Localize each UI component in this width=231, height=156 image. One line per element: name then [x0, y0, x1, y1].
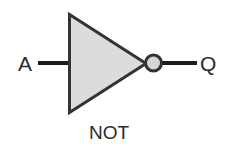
gate-body-triangle — [70, 15, 147, 113]
logic-gate-canvas: A Q NOT — [0, 0, 231, 156]
input-port-label: A — [18, 52, 32, 75]
inversion-bubble-icon — [146, 55, 162, 71]
output-port-label: Q — [200, 52, 216, 75]
gate-name-label: NOT — [89, 122, 130, 143]
not-gate-diagram: A Q NOT — [0, 0, 231, 156]
